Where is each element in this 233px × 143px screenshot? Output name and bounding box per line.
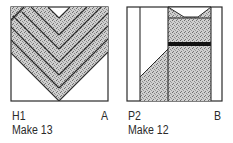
block-h1: H1 A Make 13 [0,0,117,143]
block-quantity: Make 12 [128,124,169,137]
block-p2: P2 B Make 12 [116,0,233,143]
block-code: H1 [12,110,26,123]
block-code: P2 [128,110,141,123]
block-letter: B [214,110,221,123]
column-notch-bar-diagram [116,0,233,105]
block-letter: A [101,110,108,123]
chevron-heart-diagram [0,0,117,105]
block-quantity: Make 13 [12,124,53,137]
